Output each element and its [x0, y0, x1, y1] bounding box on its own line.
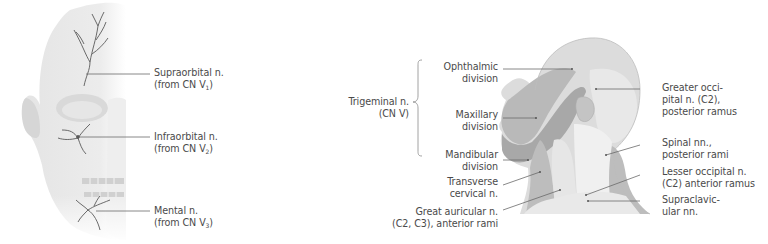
label-supraclavicular-nerves: Supraclavic- ular nn.: [662, 194, 720, 218]
label-greater-occipital-nerve: Greater occi- pital n. (C2), posterior r…: [662, 82, 737, 118]
label-infraorbital-nerve: Infraorbital n. (from CN V2): [154, 131, 218, 155]
label-transverse-cervical-nerve: Transverse cervical n.: [447, 176, 498, 200]
face-skull-illustration: [0, 0, 150, 244]
label-ophthalmic-division: Ophthalmic division: [444, 61, 498, 85]
label-great-auricular-nerve: Great auricular n. (C2, C3), anterior ra…: [392, 206, 498, 230]
label-lesser-occipital-nerve: Lesser occipital n. (C2) anterior ramus: [662, 166, 755, 190]
label-supraorbital-nerve: Supraorbital n. (from CN V1): [154, 67, 224, 91]
anatomy-figure: [0, 0, 768, 244]
label-mandibular-division: Mandibular division: [445, 149, 498, 173]
label-spinal-nerves-posterior-rami: Spinal nn., posterior rami: [662, 137, 729, 161]
label-maxillary-division: Maxillary division: [456, 109, 498, 133]
trigeminal-brace: [413, 60, 422, 156]
label-trigeminal-nerve: Trigeminal n. (CN V): [348, 96, 409, 120]
label-mental-nerve: Mental n. (from CN V3): [154, 205, 213, 229]
